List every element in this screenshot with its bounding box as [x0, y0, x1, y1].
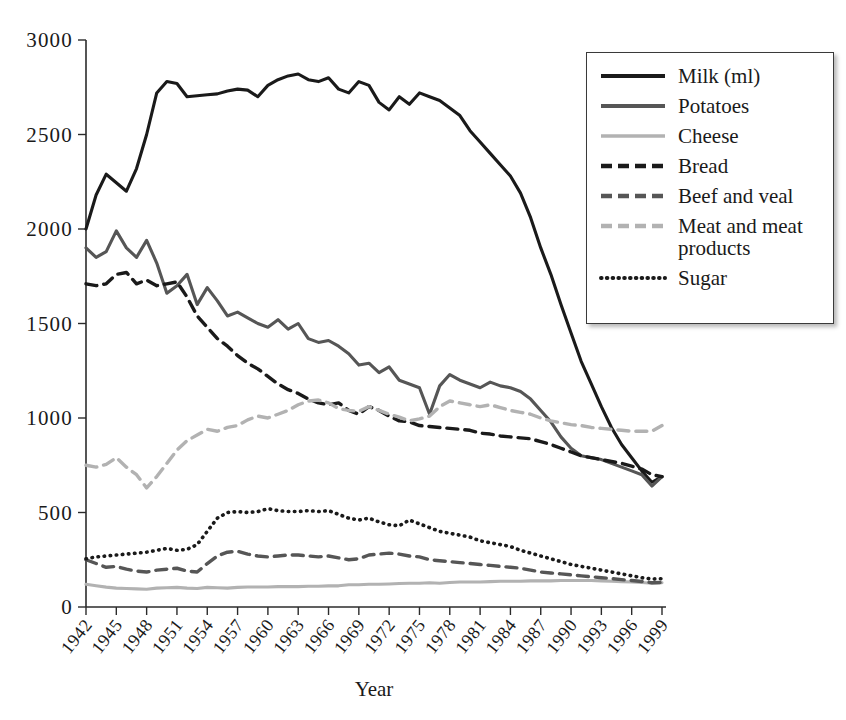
legend-label-sugar: Sugar: [678, 267, 727, 289]
legend-item: Potatoes: [599, 95, 823, 117]
x-tick-label: 1966: [300, 615, 339, 657]
y-tick-label: 3000: [26, 28, 73, 52]
legend-label-beef: Beef and veal: [678, 185, 793, 207]
y-tick-labels: 050010001500200025003000: [26, 28, 73, 619]
legend-swatch-sugar: [599, 267, 667, 289]
y-tick-label: 0: [61, 595, 73, 619]
legend-item: Meat and meat products: [599, 215, 823, 259]
legend-swatch-meat: [599, 215, 667, 237]
y-tick-label: 500: [38, 501, 73, 525]
x-tick-label: 1963: [269, 615, 308, 657]
y-tick-label: 2000: [26, 217, 73, 241]
x-tick-label: 1987: [512, 615, 551, 657]
series-line-cheese: [86, 581, 662, 590]
y-tick-label: 1000: [26, 406, 73, 430]
x-tick-label: 1984: [481, 615, 520, 657]
legend-item: Beef and veal: [599, 185, 823, 207]
legend-label-cheese: Cheese: [678, 125, 739, 147]
x-tick-label: 1993: [572, 615, 611, 657]
x-tick-label: 1981: [451, 615, 490, 657]
legend-swatch-milk: [599, 65, 667, 87]
x-tick-label: 1942: [57, 615, 96, 657]
x-tick-label: 1951: [148, 615, 187, 657]
x-tick-label: 1945: [87, 615, 126, 657]
legend-label-milk: Milk (ml): [678, 65, 760, 87]
x-tick-label: 1996: [603, 615, 642, 657]
x-tick-label: 1978: [421, 615, 460, 657]
x-axis-group: [86, 607, 666, 615]
series-group: [86, 74, 662, 589]
legend-swatch-bread: [599, 155, 667, 177]
x-tick-label: 1969: [330, 615, 369, 657]
series-line-milk-ml: [86, 74, 662, 482]
x-tick-labels: 1942194519481951195419571960196319661969…: [57, 615, 672, 657]
y-axis-group: [78, 40, 86, 607]
x-tick-label: 1975: [390, 615, 429, 657]
x-tick-label: 1954: [178, 615, 217, 657]
x-axis-title: Year: [355, 677, 394, 701]
legend-swatch-potatoes: [599, 95, 667, 117]
y-tick-label: 1500: [26, 312, 73, 336]
legend-item: Bread: [599, 155, 823, 177]
chart-legend: Milk (ml) Potatoes Cheese Bread Beef and…: [586, 52, 834, 324]
series-line-potatoes: [86, 231, 662, 486]
legend-item: Cheese: [599, 125, 823, 147]
legend-swatch-cheese: [599, 125, 667, 147]
chart-container: 050010001500200025003000 194219451948195…: [0, 0, 846, 720]
x-tick-label: 1948: [118, 615, 157, 657]
x-tick-label: 1957: [209, 615, 248, 657]
series-line-meat-and-meat-products: [86, 400, 662, 488]
series-line-bread: [86, 272, 662, 476]
legend-swatch-beef: [599, 185, 667, 207]
x-tick-label: 1972: [360, 615, 399, 657]
legend-label-potatoes: Potatoes: [678, 95, 749, 117]
legend-item: Sugar: [599, 267, 823, 289]
legend-label-meat: Meat and meat products: [678, 215, 803, 259]
x-tick-label: 1990: [542, 615, 581, 657]
legend-label-bread: Bread: [678, 155, 728, 177]
x-tick-label: 1999: [633, 615, 672, 657]
legend-item: Milk (ml): [599, 65, 823, 87]
x-tick-label: 1960: [239, 615, 278, 657]
y-tick-label: 2500: [26, 123, 73, 147]
